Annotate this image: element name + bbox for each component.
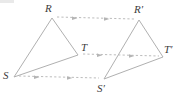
translation-arrow-r-line (57, 17, 134, 19)
translation-arrow-t-head-1 (97, 53, 102, 57)
vertex-label-r: R (45, 3, 52, 14)
translation-arrow-r-head-2 (104, 17, 109, 21)
translation-arrow-t (83, 53, 159, 57)
triangle-rst-prime-outline (104, 20, 163, 79)
translation-arrow-s-head-1 (34, 75, 39, 79)
triangle-rst-outline (14, 18, 78, 77)
geometry-canvas (0, 0, 176, 103)
vertex-label-t: T (81, 42, 87, 53)
translation-arrow-s-line (19, 76, 99, 78)
translation-figure: R S T R′ S′ T′ (0, 0, 176, 103)
translation-arrow-t-line (83, 54, 159, 56)
translation-arrow-r-head-1 (72, 16, 77, 20)
triangle-rst-prime (104, 20, 163, 79)
translation-arrow-r (57, 16, 134, 20)
translation-arrow-s (19, 75, 99, 79)
triangle-rst (14, 18, 78, 77)
vertex-label-r-prime: R′ (134, 4, 143, 15)
translation-arrow-s-head-2 (67, 76, 72, 80)
vertex-label-t-prime: T′ (164, 44, 173, 55)
translation-arrow-t-head-2 (129, 54, 134, 58)
vertex-label-s: S (3, 70, 9, 81)
vertex-label-s-prime: S′ (97, 83, 105, 94)
